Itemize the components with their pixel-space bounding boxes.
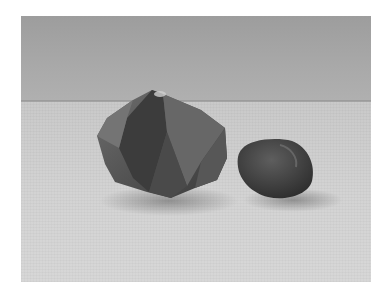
photograph xyxy=(21,16,371,282)
rounded-pebble xyxy=(236,137,316,201)
faceted-crystal xyxy=(97,88,229,200)
